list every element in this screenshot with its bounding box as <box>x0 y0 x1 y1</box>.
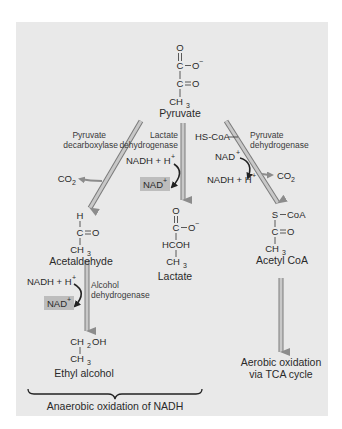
co2-decarboxylase: CO 2 <box>58 173 102 186</box>
svg-text:dehydrogenase: dehydrogenase <box>119 140 178 150</box>
nadh-pdh: NADH + H + <box>207 172 256 185</box>
svg-text:CH: CH <box>166 256 180 267</box>
svg-text:CO: CO <box>277 170 291 181</box>
svg-text:HCOH: HCOH <box>162 239 190 250</box>
svg-text:NAD: NAD <box>143 179 163 190</box>
svg-text:dehydrogenase: dehydrogenase <box>250 140 309 150</box>
pyruvate-fates-diagram: O C O − C O CH 3 Pyruvate Pyruvate decar… <box>0 0 342 429</box>
anaerobic-brace <box>28 389 202 399</box>
acetaldehyde-label: Acetaldehyde <box>49 255 113 267</box>
svg-text:NADH + H: NADH + H <box>27 276 72 287</box>
enzyme-pyruvate-decarboxylase: Pyruvate decarboxylase <box>63 130 118 150</box>
svg-text:CH: CH <box>169 96 183 107</box>
svg-text:dehydrogenase: dehydrogenase <box>91 290 150 300</box>
nadh-lactate: NADH + H + <box>126 153 175 166</box>
svg-text:3: 3 <box>87 359 91 366</box>
enzyme-alcohol-dehydrogenase: Alcohol dehydrogenase <box>91 280 150 300</box>
svg-text:S: S <box>272 209 278 220</box>
pyruvate-label: Pyruvate <box>159 107 201 119</box>
svg-text:C: C <box>173 222 180 233</box>
svg-text:C: C <box>77 227 84 238</box>
svg-text:+: + <box>236 149 240 156</box>
svg-text:HS-CoA: HS-CoA <box>195 131 231 142</box>
ethyl-alcohol-structure: CH 2 OH CH 3 <box>70 336 106 366</box>
svg-text:2: 2 <box>72 179 76 186</box>
svg-text:decarboxylase: decarboxylase <box>63 140 118 150</box>
svg-text:+: + <box>171 153 175 160</box>
svg-text:3: 3 <box>183 262 187 269</box>
svg-text:O: O <box>192 78 199 89</box>
svg-text:Alcohol: Alcohol <box>91 280 119 290</box>
ethyl-alcohol-label: Ethyl alcohol <box>54 367 114 379</box>
svg-text:CH: CH <box>265 243 279 254</box>
svg-text:CH: CH <box>70 244 84 255</box>
lactate-label: Lactate <box>158 270 193 282</box>
svg-text:O: O <box>287 226 294 237</box>
svg-text:NAD: NAD <box>215 151 235 162</box>
nadh-to-nad-curve-alcohol <box>74 284 81 306</box>
svg-text:Pyruvate: Pyruvate <box>250 130 284 140</box>
svg-text:NAD: NAD <box>47 298 67 309</box>
nadh-alcohol: NADH + H + <box>27 274 76 287</box>
acetyl-coa-structure: S CoA C O CH 3 <box>265 209 306 256</box>
svg-text:Aerobic oxidation: Aerobic oxidation <box>241 356 322 368</box>
svg-text:CH: CH <box>70 353 84 364</box>
svg-text:−: − <box>199 58 203 65</box>
svg-text:−: − <box>195 220 199 227</box>
svg-text:via TCA cycle: via TCA cycle <box>249 368 313 380</box>
acetyl-coa-label: Acetyl CoA <box>256 254 308 266</box>
svg-text:O: O <box>172 205 179 216</box>
svg-text:+: + <box>163 177 167 184</box>
svg-text:NADH + H: NADH + H <box>126 155 171 166</box>
svg-text:+: + <box>252 172 256 179</box>
aerobic-oxidation-label: Aerobic oxidation via TCA cycle <box>241 356 322 380</box>
acetaldehyde-structure: H C O CH 3 <box>70 210 99 257</box>
svg-text:H: H <box>77 210 84 221</box>
nad-pdh: NAD + <box>215 149 240 162</box>
svg-text:Pyruvate: Pyruvate <box>72 130 106 140</box>
anaerobic-oxidation-label: Anaerobic oxidation of NADH <box>47 400 184 412</box>
svg-text:CO: CO <box>58 173 72 184</box>
svg-text:C: C <box>272 226 279 237</box>
svg-text:O: O <box>92 227 99 238</box>
enzyme-lactate-dehydrogenase: Lactate dehydrogenase <box>119 130 178 150</box>
lactate-structure: O C O − HCOH CH 3 <box>162 205 199 269</box>
nadh-to-nad-curve-lactate <box>172 164 180 187</box>
svg-text:CH: CH <box>70 336 84 347</box>
svg-text:+: + <box>72 274 76 281</box>
svg-text:C: C <box>177 78 184 89</box>
svg-text:CoA: CoA <box>287 209 306 220</box>
svg-text:Lactate: Lactate <box>150 130 178 140</box>
pyruvate-structure: O C O − C O CH 3 <box>169 42 203 109</box>
svg-text:O: O <box>176 42 183 53</box>
svg-text:C: C <box>177 60 184 71</box>
svg-text:2: 2 <box>291 176 295 183</box>
svg-text:+: + <box>67 296 71 303</box>
svg-text:2: 2 <box>87 342 91 349</box>
enzyme-pyruvate-dehydrogenase: Pyruvate dehydrogenase <box>250 130 309 150</box>
svg-text:OH: OH <box>92 336 106 347</box>
svg-text:NADH + H: NADH + H <box>207 174 252 185</box>
